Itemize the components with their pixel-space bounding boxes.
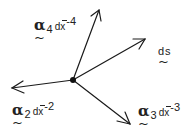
dx-term: dx [33,106,44,117]
vertex-dot [70,77,76,83]
exponent: -2 [44,100,54,112]
subscript: 3 [151,109,157,121]
exponent: -3 [170,101,180,113]
alpha-symbol: α~ [34,18,46,33]
label-ds: ds~ [158,42,172,58]
arrow-lower-right-shaft [73,80,130,124]
arrow-left-shaft [12,80,73,88]
alpha-symbol: α~ [12,103,24,118]
ds-term: ds~ [158,46,172,57]
tilde-mark: ~ [158,55,170,68]
arrow-upper-right-shaft [73,39,145,80]
tilde-mark: ~ [138,117,149,130]
tilde-mark: ~ [34,31,45,44]
label-alpha4: α~4dx-4 [34,16,76,35]
dx-term: dx [55,21,66,32]
label-alpha2: α~2dx-2 [12,101,54,120]
subscript: 2 [25,108,31,120]
label-alpha3: α~3dx-3 [138,102,180,121]
dx-term: dx [159,107,170,118]
arrow-up-shaft [73,10,99,80]
subscript: 4 [47,23,53,35]
alpha-symbol: α~ [138,104,150,119]
exponent: -4 [66,15,76,27]
tilde-mark: ~ [12,116,23,129]
